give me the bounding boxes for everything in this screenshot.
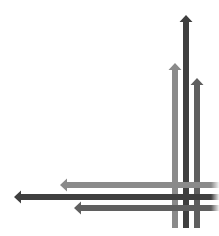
- arrow-up-icon: [169, 63, 182, 228]
- right-edge-fade: [211, 176, 219, 216]
- crossing-arrows-graphic: [0, 0, 219, 236]
